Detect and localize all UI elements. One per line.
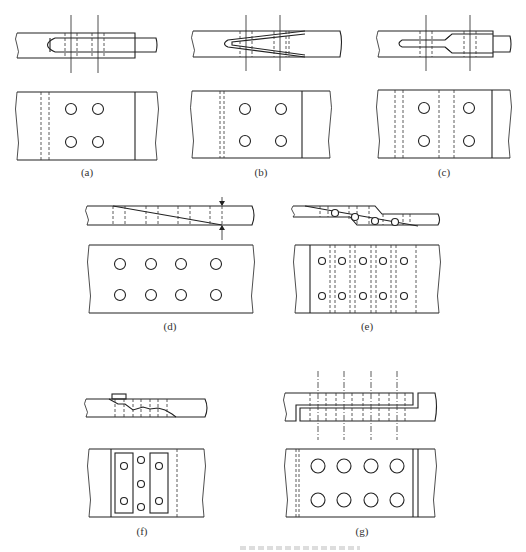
panel-d [86, 197, 255, 313]
panel-g-top-view [285, 449, 437, 517]
panel-e [292, 206, 441, 313]
panel-b-label: (b) [255, 166, 268, 178]
panel-g-label: (g) [356, 525, 369, 537]
panel-d-label: (d) [164, 320, 177, 332]
panel-f-top-view [88, 449, 206, 517]
panel-a-label: (a) [81, 166, 93, 178]
panel-e-top-view [294, 245, 441, 313]
panel-d-top-view [88, 245, 255, 313]
panel-f-side-view [85, 394, 208, 417]
panel-e-side-view [292, 206, 440, 226]
panel-c-side-view [377, 15, 512, 71]
panel-c-top-view [377, 90, 512, 158]
panel-g-side-view [284, 371, 437, 440]
panel-c [377, 15, 512, 158]
panel-f [85, 394, 208, 517]
panel-a [16, 15, 159, 160]
splice-joints-diagram [0, 0, 526, 552]
panel-a-top-view [16, 92, 159, 160]
panel-d-side-view [86, 197, 255, 240]
panel-c-label: (c) [438, 166, 450, 178]
panel-a-side-view [16, 15, 158, 73]
panel-g [284, 371, 437, 517]
panel-b [191, 15, 342, 158]
panel-b-top-view [191, 91, 332, 158]
figure-caption-cutoff [240, 546, 360, 550]
panel-b-side-view [192, 15, 342, 71]
panel-f-label: (f) [137, 525, 148, 537]
panel-e-label: (e) [361, 320, 373, 332]
